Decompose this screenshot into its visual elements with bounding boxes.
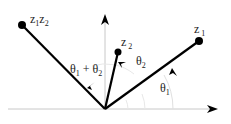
- complex-multiplication-diagram: z1z2 z2 z1 θ1 θ2 θ1 + θ2: [0, 0, 231, 124]
- label-z1: z1: [194, 22, 205, 38]
- label-theta-sum: θ1 + θ2: [70, 62, 102, 78]
- label-z1z2: z1z2: [30, 12, 49, 28]
- label-z2: z2: [121, 35, 132, 51]
- diagram-svg: z1z2 z2 z1 θ1 θ2 θ1 + θ2: [0, 0, 231, 124]
- point-z1z2: [18, 21, 26, 29]
- theta-sum-arrow-icon: [87, 82, 95, 90]
- theta1-inner-arc: [142, 94, 145, 109]
- point-z1: [195, 37, 203, 45]
- point-z2: [115, 49, 122, 56]
- label-theta2: θ2: [136, 54, 146, 70]
- theta1-small-arc: [126, 100, 128, 109]
- theta1-arrow-icon: [169, 68, 177, 76]
